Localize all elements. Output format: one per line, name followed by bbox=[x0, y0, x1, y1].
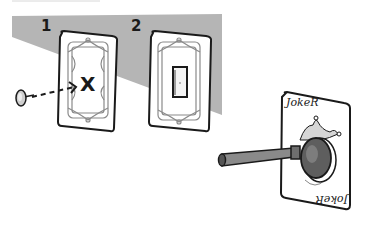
step-1-label: 1 bbox=[41, 19, 51, 34]
thumbtack-icon bbox=[16, 90, 34, 106]
magic-trick-illustration: X bbox=[0, 0, 368, 227]
joker-top-label: JokeR bbox=[284, 96, 319, 109]
joker-bottom-label: JokeR bbox=[316, 193, 351, 206]
cutout-window bbox=[173, 67, 187, 97]
x-mark: X bbox=[80, 72, 96, 96]
card-step-1: X bbox=[58, 31, 117, 131]
card-step-2 bbox=[149, 31, 211, 131]
step-2-label: 2 bbox=[131, 19, 141, 34]
